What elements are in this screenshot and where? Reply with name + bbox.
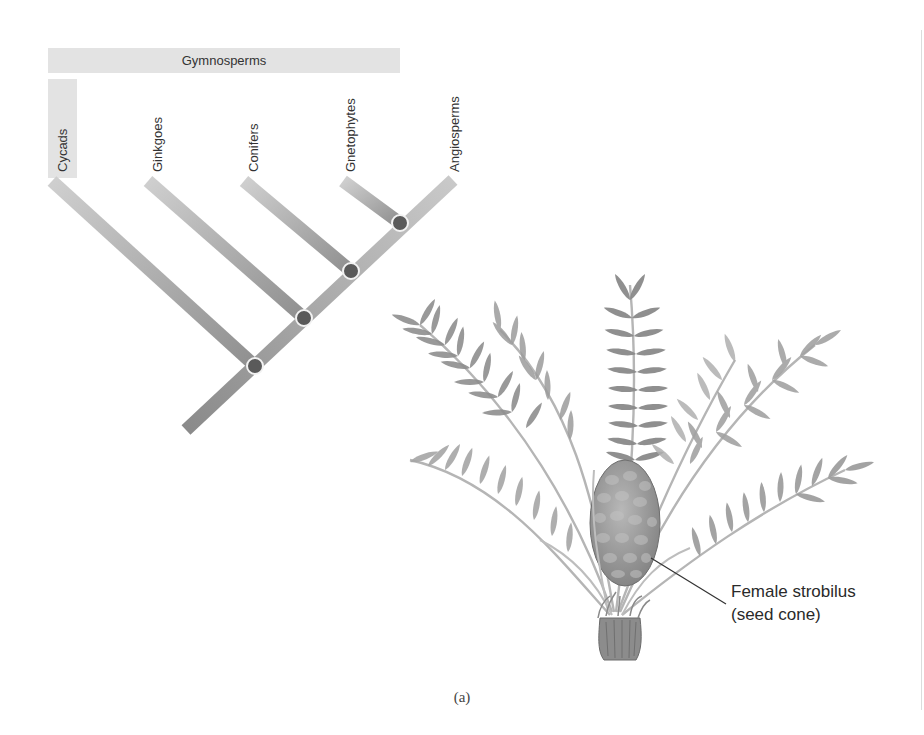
callout-line-1: Female strobilus <box>731 580 856 603</box>
seed-cone-callout: Female strobilus (seed cone) <box>731 580 856 626</box>
frond-left-upper <box>420 325 612 612</box>
callout-line-2: (seed cone) <box>731 603 856 626</box>
figure-caption: (a) <box>0 689 924 706</box>
cycad-figure: Gymnosperms Cycads Ginkgoes Conifers Gne… <box>0 0 924 735</box>
page-edge-divider <box>921 30 922 710</box>
